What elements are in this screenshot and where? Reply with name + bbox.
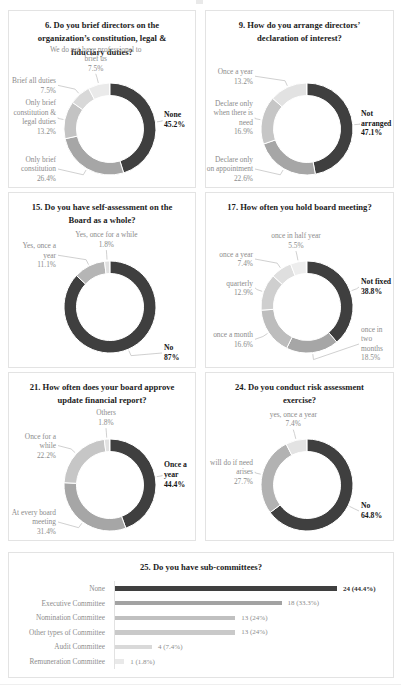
segment-label: Only brief constitution & legal duties13… [9, 98, 56, 136]
segment-name: Declare only when there is need [214, 99, 253, 127]
segment-percent: 22.6% [206, 174, 253, 183]
bar [115, 645, 152, 650]
bar-track: 1 (1.8%) [114, 654, 393, 669]
segment-percent: 44.4% [164, 480, 195, 490]
segment-label: Not fixed38.8% [361, 277, 391, 297]
page-bottom-rule [0, 684, 401, 685]
segment-name: Once a year [164, 460, 187, 479]
segment-percent: 12.9% [226, 288, 253, 297]
donut-segment-2 [64, 439, 106, 483]
bar-row: Remuneration Committee1 (1.8%) [9, 654, 393, 669]
bar-value-label: 4 (7.4%) [158, 643, 183, 651]
segment-label: We do not have professional to brief us7… [46, 45, 145, 73]
segment-name: yes, once a year [270, 410, 317, 419]
segment-percent: 16.6% [213, 339, 253, 348]
segment-name: Brief all duties [12, 76, 56, 85]
segment-label: Others1.8% [96, 408, 116, 427]
segment-name: Only brief constitution [21, 155, 56, 173]
donut-segment-1 [261, 444, 292, 512]
segment-label: Not arranged47.1% [361, 109, 393, 139]
segment-label: yes, once a year7.4% [270, 410, 317, 429]
segment-label: Yes, once for a while1.8% [75, 230, 137, 249]
bar-category-label: Other types of Committee [9, 628, 114, 637]
label-leader-line [296, 251, 298, 260]
label-leader-line [255, 76, 287, 86]
donut-segment-2 [261, 98, 282, 144]
segment-label: once in half year5.5% [271, 231, 320, 250]
segment-percent: 27.7% [206, 477, 253, 486]
segment-label: quarterly12.9% [226, 278, 253, 297]
chart-panel-q21-financial-report: 21. How often does your board approve up… [8, 372, 196, 541]
segment-label: once in two months18.5% [361, 325, 393, 363]
segment-label: At every board meeting31.4% [9, 508, 56, 536]
segment-name: once a month [213, 330, 253, 339]
segment-percent: 7.4% [270, 419, 317, 428]
segment-percent: 7.5% [46, 64, 145, 73]
segment-percent: 5.5% [271, 241, 320, 250]
bar-row: Audit Committee4 (7.4%) [9, 640, 393, 655]
bar-value-label: 13 (24%) [241, 614, 267, 622]
label-leader-line [255, 333, 268, 339]
chart-panel-q25-sub-committees: 25. Do you have sub-committees? None24 (… [8, 552, 394, 678]
chart-title: 25. Do you have sub-committees? [21, 561, 381, 574]
segment-name: will do if need arises [210, 458, 253, 476]
segment-name: once in two months [361, 325, 383, 353]
donut-segment-1 [64, 483, 126, 531]
bar-row: Nomination Committee13 (24%) [9, 611, 393, 626]
segment-percent: 1.8% [96, 418, 116, 427]
bar [115, 586, 337, 591]
segment-percent: 45.2% [164, 120, 185, 130]
label-leader-line [255, 259, 280, 268]
label-leader-line [349, 506, 359, 511]
label-leader-line [96, 74, 99, 83]
bar-category-label: None [9, 584, 114, 593]
bar-track: 24 (44.4%) [114, 581, 393, 596]
bar [115, 601, 282, 606]
bar-track: 13 (24%) [114, 625, 393, 640]
segment-name: At every board meeting [12, 508, 56, 526]
label-leader-line [129, 351, 162, 356]
bar-value-label: 1 (1.8%) [130, 658, 155, 666]
label-leader-line [255, 169, 283, 175]
bar-track: 13 (24%) [114, 611, 393, 626]
segment-percent: 64.8% [361, 511, 382, 521]
chart-panel-q17-board-meeting: 17. How often you hold board meeting? No… [205, 192, 394, 368]
label-leader-line [58, 446, 75, 453]
segment-percent: 22.2% [9, 450, 56, 459]
segment-percent: 18.5% [361, 353, 393, 362]
bar-row: Other types of Committee13 (24%) [9, 625, 393, 640]
label-leader-line [58, 117, 63, 119]
segment-name: Once for a while [25, 431, 56, 449]
segment-percent: 26.4% [9, 174, 56, 183]
donut-segment-1 [287, 333, 337, 353]
label-leader-line [352, 287, 359, 291]
segment-label: Once for a while22.2% [9, 431, 56, 459]
bar-track: 18 (33.3%) [114, 596, 393, 611]
donut-segment-1 [264, 140, 316, 175]
label-leader-line [255, 472, 261, 474]
bar [115, 630, 235, 635]
segment-percent: 16.9% [206, 127, 253, 136]
label-leader-line [58, 85, 79, 93]
segment-percent: 31.4% [9, 527, 56, 536]
bar [115, 616, 235, 621]
segment-percent: 38.8% [361, 287, 391, 297]
chart-panel-q15-self-assessment: 15. Do you have self-assessment on the B… [8, 192, 196, 368]
label-leader-line [293, 430, 295, 439]
segment-percent: 11.1% [9, 260, 56, 269]
segment-percent: 1.8% [75, 240, 137, 249]
segment-name: Only brief constitution & legal duties [14, 98, 57, 126]
segment-percent: 7.4% [219, 259, 253, 268]
label-leader-line [106, 250, 107, 259]
segment-percent: 47.1% [361, 129, 393, 139]
segment-name: Declare only on appointment [207, 155, 253, 173]
bar-category-label: Executive Committee [9, 599, 114, 608]
segment-label: once a year7.4% [219, 250, 253, 269]
segment-name: Not fixed [361, 277, 391, 286]
segment-label: No64.8% [361, 501, 382, 521]
segment-name: No [164, 343, 173, 352]
chart-panel-q24-risk-assessment: 24. Do you conduct risk assessment exerc… [205, 372, 394, 541]
segment-percent: 87% [164, 353, 179, 363]
segment-name: Once a year [218, 67, 253, 76]
segment-name: once a year [219, 250, 253, 259]
